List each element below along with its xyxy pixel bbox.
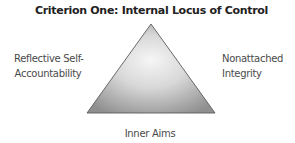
vertex-label-right-line-2: Integrity	[222, 66, 283, 81]
vertex-label-left-line-1: Reflective Self-	[14, 51, 82, 66]
vertex-label-bottom: Inner Aims	[0, 126, 295, 141]
vertex-label-right-line-1: Nonattached	[222, 51, 283, 66]
vertex-label-bottom-line-1: Inner Aims	[0, 126, 295, 141]
vertex-label-right: Nonattached Integrity	[222, 51, 283, 81]
vertex-label-left-line-2: Accountability	[14, 66, 82, 81]
vertex-label-left: Reflective Self- Accountability	[14, 51, 82, 81]
